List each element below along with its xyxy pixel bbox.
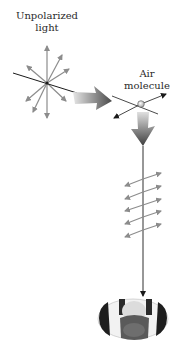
air-molecule-icon (138, 101, 145, 108)
propagation-line (13, 73, 77, 93)
incoming-light-arrow-icon (73, 86, 112, 110)
observer-head-icon (98, 299, 168, 340)
star-center-dot (46, 82, 49, 85)
molecule-axis-line (112, 96, 158, 114)
molecule-oscillation-arrow-left-icon (114, 104, 141, 118)
scattering-diagram (0, 0, 186, 344)
molecule-oscillation-arrow-icon (141, 94, 166, 104)
scattered-light-arrow-icon (131, 112, 155, 146)
